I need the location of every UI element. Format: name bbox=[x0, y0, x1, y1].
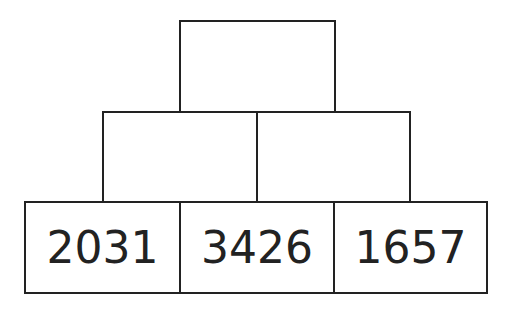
pyramid-middle-cell-1 bbox=[102, 111, 259, 204]
pyramid-middle-cell-2 bbox=[256, 111, 411, 204]
pyramid-bottom-cell-3: 1657 bbox=[333, 201, 488, 294]
pyramid-bottom-cell-2: 3426 bbox=[179, 201, 335, 294]
pyramid-bottom-cell-1: 2031 bbox=[24, 201, 181, 294]
pyramid-top-cell bbox=[179, 20, 336, 114]
